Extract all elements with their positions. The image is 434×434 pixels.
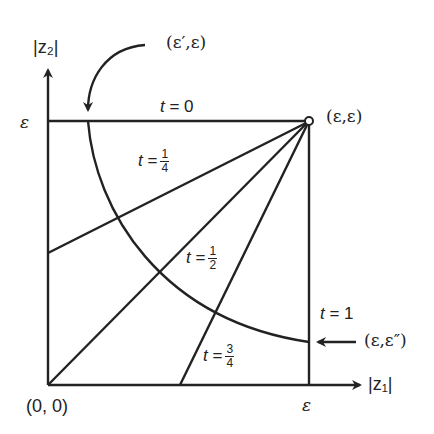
t0-label: t = 0: [160, 98, 194, 115]
y-axis-label: |z₂|: [33, 38, 58, 56]
t1-label: t = 1: [320, 305, 354, 322]
x-tick-epsilon: ε: [302, 397, 311, 414]
origin-label: (0, 0): [26, 397, 68, 415]
corner-point-label: (ε,ε): [326, 108, 362, 125]
t-half-line: [48, 124, 306, 385]
corner-point: [305, 117, 313, 125]
arc-top-point-label: (ε′,ε): [166, 34, 206, 51]
arc-top-arrow: [88, 45, 145, 110]
y-tick-epsilon: ε: [20, 114, 29, 131]
t-three-quarter-label: t =34: [203, 343, 234, 369]
t-half-label: t =12: [186, 245, 217, 271]
arc-right-point-label: (ε,ε″): [364, 332, 407, 349]
t-quarter-label: t =14: [138, 148, 169, 174]
x-axis-label: |z₁|: [368, 375, 392, 393]
t-quarter-line: [48, 123, 306, 253]
